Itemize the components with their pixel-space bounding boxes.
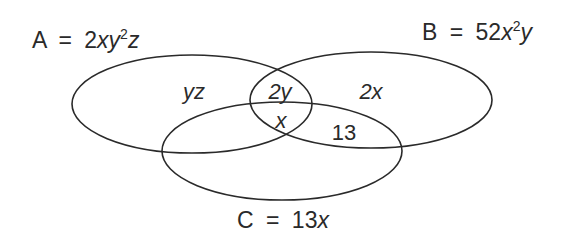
region-a-and-b: 2y — [267, 79, 293, 104]
set-a-label: A = 2xy2z — [32, 26, 140, 53]
set-c-label: C = 13x — [237, 207, 330, 233]
region-b-and-c: 13 — [332, 120, 356, 145]
set-b-label: B = 52x2y — [422, 18, 533, 45]
region-a-only: yz — [181, 79, 205, 104]
venn-diagram: A = 2xy2z B = 52x2y C = 13x yz 2y 2x x 1… — [0, 0, 565, 248]
region-b-only: 2x — [358, 79, 383, 104]
region-a-b-c: x — [275, 108, 288, 133]
